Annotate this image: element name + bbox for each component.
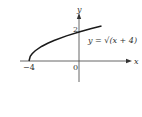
function-label: y = √(x + 4) <box>87 36 137 45</box>
function-graph: x y −4 0 2 y = √(x + 4) <box>0 0 142 117</box>
y-axis-label: y <box>76 5 82 14</box>
origin-label: 0 <box>73 63 78 72</box>
x-tick-label-neg4: −4 <box>23 63 35 72</box>
y-tick-label-2: 2 <box>73 25 78 34</box>
x-axis-label: x <box>134 57 139 66</box>
x-axis-arrow-icon <box>126 59 132 63</box>
